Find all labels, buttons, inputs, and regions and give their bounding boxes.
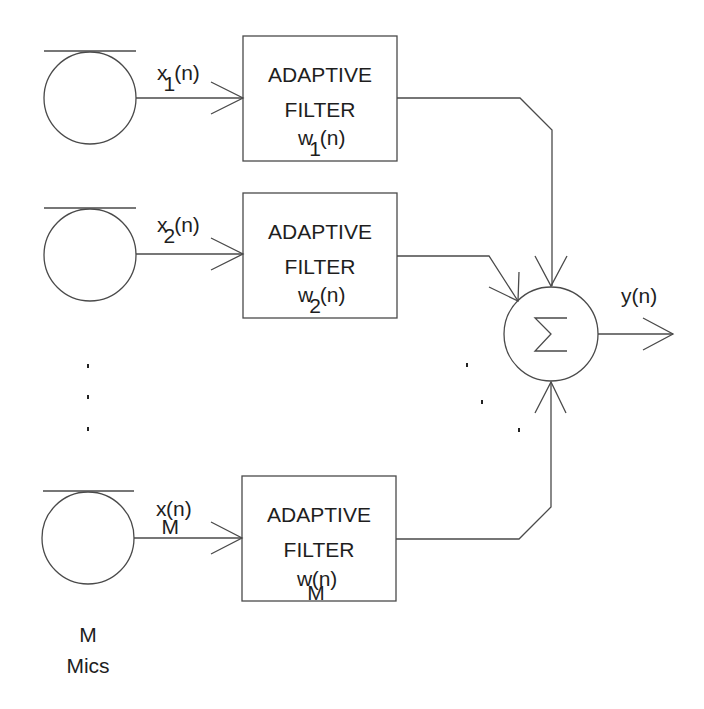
mic-row-1: x1(n) ADAPTIVE FILTER w1(n) <box>44 36 567 286</box>
filter-1-line1: ADAPTIVE <box>268 63 372 86</box>
dot <box>481 400 483 404</box>
filter-1-weight: w1(n) <box>297 126 346 160</box>
dot <box>466 363 468 367</box>
output-label: y(n) <box>621 284 657 307</box>
mic-row-2: x2(n) ADAPTIVE FILTER w2(n) <box>44 193 519 318</box>
dot <box>518 428 520 432</box>
summing-node: y(n) <box>504 284 673 381</box>
mic-1-icon <box>44 52 136 144</box>
mic-row-M: xM(n) ADAPTIVE FILTER wM(n) <box>42 382 566 604</box>
arrowhead-icon <box>535 256 567 286</box>
filter-2-weight: w2(n) <box>297 283 346 317</box>
ellipsis-right <box>466 363 520 432</box>
beamformer-diagram: x1(n) ADAPTIVE FILTER w1(n) x2(n) ADAPTI… <box>0 0 704 709</box>
filter-M-line1: ADAPTIVE <box>267 503 371 526</box>
filter-1-line2: FILTER <box>285 98 356 121</box>
filter-1-output-path <box>397 98 552 286</box>
filter-M-weight: wM(n) <box>296 567 337 604</box>
dot <box>87 364 89 368</box>
signal-label-1: x1(n) <box>157 61 200 95</box>
filter-M-line2: FILTER <box>284 538 355 561</box>
mic-2-icon <box>44 209 136 301</box>
filter-2-line1: ADAPTIVE <box>268 220 372 243</box>
filter-2-output-path <box>397 256 518 301</box>
sigma-icon <box>535 318 567 351</box>
mic-M-icon <box>42 492 134 584</box>
dot <box>87 395 89 399</box>
mics-caption-count: M <box>79 623 97 646</box>
filter-2-line2: FILTER <box>285 255 356 278</box>
signal-label-M: xM(n) <box>156 497 192 538</box>
mics-caption-label: Mics <box>66 654 109 677</box>
signal-label-2: x2(n) <box>157 213 200 247</box>
ellipsis-left <box>87 364 89 431</box>
filter-M-output-path <box>396 382 551 539</box>
dot <box>87 427 89 431</box>
